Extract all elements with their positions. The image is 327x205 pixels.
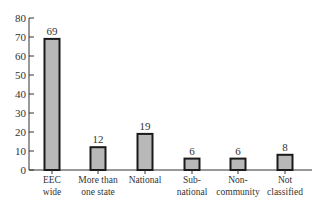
category-label: community bbox=[216, 187, 260, 197]
y-axis: 01020304050607080 bbox=[15, 12, 34, 176]
bar-chart: 01020304050607080 69EECwide12More thanon… bbox=[0, 0, 327, 205]
category-label: wide bbox=[43, 187, 61, 197]
y-tick-label: 50 bbox=[15, 69, 27, 81]
category-label: More than bbox=[78, 175, 118, 185]
y-tick-label: 0 bbox=[21, 164, 27, 176]
bar bbox=[91, 147, 106, 170]
y-tick-label: 40 bbox=[15, 88, 27, 100]
category-label: Non- bbox=[228, 175, 248, 185]
bar-group: 12More thanone state bbox=[78, 133, 118, 197]
category-label: classified bbox=[267, 187, 303, 197]
value-label: 6 bbox=[235, 145, 241, 157]
value-label: 12 bbox=[93, 133, 104, 145]
category-label: Not bbox=[278, 175, 293, 185]
y-tick-label: 10 bbox=[15, 145, 27, 157]
category-label: one state bbox=[81, 187, 115, 197]
bar-group: 69EECwide bbox=[43, 25, 61, 197]
bar-group: 8Notclassified bbox=[267, 141, 303, 197]
bar bbox=[278, 155, 293, 170]
value-label: 69 bbox=[47, 25, 59, 37]
bar bbox=[45, 39, 60, 170]
bar bbox=[231, 159, 246, 170]
category-label: EEC bbox=[43, 175, 61, 185]
value-label: 8 bbox=[282, 141, 288, 153]
y-tick-label: 80 bbox=[15, 12, 27, 24]
value-label: 6 bbox=[189, 145, 195, 157]
y-tick-label: 70 bbox=[15, 31, 27, 43]
category-label: national bbox=[177, 187, 208, 197]
category-label: National bbox=[129, 175, 162, 185]
bar-group: 19National bbox=[129, 120, 162, 185]
y-tick-label: 20 bbox=[15, 126, 27, 138]
y-tick-label: 60 bbox=[15, 50, 27, 62]
bars: 69EECwide12More thanone state19National6… bbox=[43, 25, 303, 197]
bar bbox=[185, 159, 200, 170]
bar-group: 6Sub-national bbox=[177, 145, 208, 197]
value-label: 19 bbox=[140, 120, 152, 132]
category-label: Sub- bbox=[183, 175, 201, 185]
bar-group: 6Non-community bbox=[216, 145, 260, 197]
bar bbox=[138, 134, 153, 170]
y-tick-label: 30 bbox=[15, 107, 27, 119]
